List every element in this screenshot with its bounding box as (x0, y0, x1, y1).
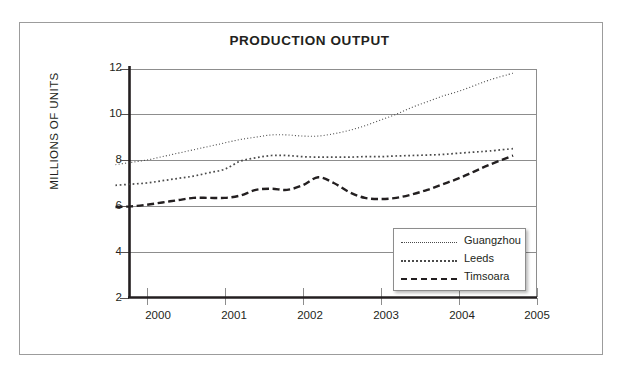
legend-line-sample-guangzhou (401, 242, 457, 243)
plot-area (0, 0, 619, 372)
chart-legend[interactable]: Guangzhou Leeds Timsoara (393, 228, 526, 291)
legend-label-timsoara: Timsoara (464, 270, 509, 282)
gridlines (130, 70, 537, 253)
legend-label-leeds: Leeds (464, 252, 494, 264)
legend-item-timsoara[interactable]: Timsoara (401, 270, 521, 288)
data-series-group (115, 73, 513, 207)
legend-line-sample-timsoara (401, 278, 457, 280)
series-line-timsoara (115, 156, 513, 208)
legend-item-guangzhou[interactable]: Guangzhou (401, 234, 521, 252)
legend-item-leeds[interactable]: Leeds (401, 252, 521, 270)
legend-line-sample-leeds (401, 260, 457, 262)
legend-label-guangzhou: Guangzhou (464, 234, 521, 246)
chart-figure: PRODUCTION OUTPUT MILLIONS OF UNITS 12 1… (0, 0, 619, 372)
series-line-guangzhou (115, 73, 513, 165)
